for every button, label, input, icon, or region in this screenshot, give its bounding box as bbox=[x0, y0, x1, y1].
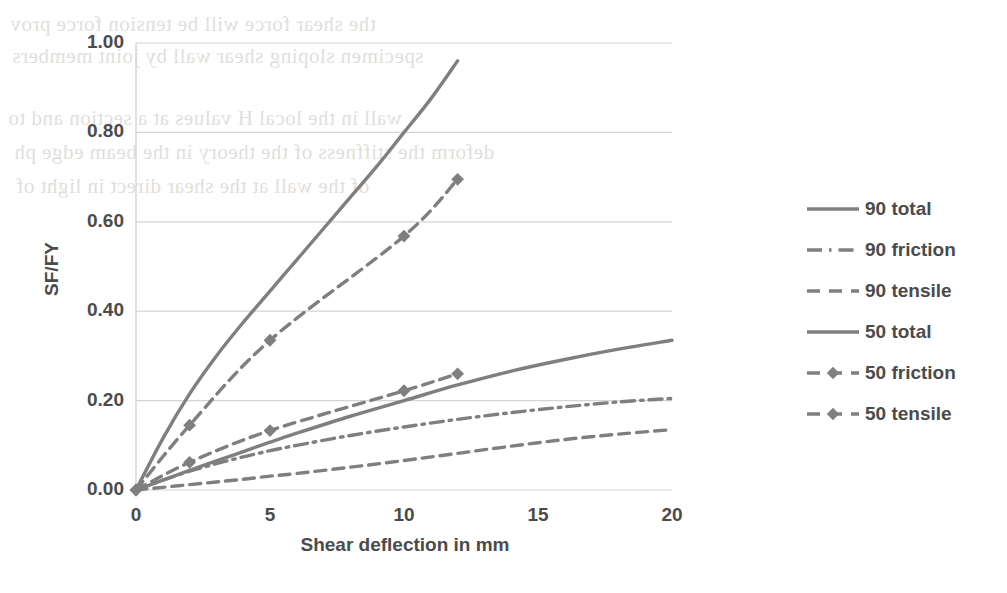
x-tick-label: 15 bbox=[508, 504, 568, 526]
legend-item-50-total[interactable]: 50 total bbox=[806, 311, 1002, 352]
series-line-50-tensile bbox=[136, 179, 458, 490]
legend-item-label: 50 tensile bbox=[865, 403, 952, 425]
series-line-90-friction bbox=[136, 398, 672, 490]
legend-swatch-icon bbox=[806, 241, 860, 259]
legend-item-label: 90 total bbox=[865, 198, 932, 220]
series-marker-50-friction bbox=[398, 384, 411, 397]
series-lines-group bbox=[136, 61, 672, 490]
legend-item-50-tensile[interactable]: 50 tensile bbox=[806, 393, 1002, 434]
x-tick-label: 5 bbox=[240, 504, 300, 526]
chart-figure: 0.000.200.400.600.801.00 05101520 Shear … bbox=[0, 0, 1007, 593]
legend-item-label: 90 tensile bbox=[865, 280, 952, 302]
legend-item-50-friction[interactable]: 50 friction bbox=[806, 352, 1002, 393]
y-tick-label: 1.00 bbox=[50, 31, 124, 53]
legend-swatch-icon bbox=[806, 282, 860, 300]
series-marker-50-friction bbox=[183, 456, 196, 469]
legend-item-label: 90 friction bbox=[865, 239, 956, 261]
series-line-50-total bbox=[136, 340, 672, 490]
legend-item-90-total[interactable]: 90 total bbox=[806, 188, 1002, 229]
legend-swatch-icon bbox=[806, 323, 860, 341]
legend-item-label: 50 total bbox=[865, 321, 932, 343]
x-tick-label: 0 bbox=[106, 504, 166, 526]
chart-legend: 90 total90 friction90 tensile50 total50 … bbox=[806, 188, 1002, 434]
series-marker-50-friction bbox=[451, 367, 464, 380]
series-marker-50-friction bbox=[264, 424, 277, 437]
legend-swatch-icon bbox=[806, 364, 860, 382]
legend-item-90-friction[interactable]: 90 friction bbox=[806, 229, 1002, 270]
y-tick-label: 0.00 bbox=[50, 478, 124, 500]
y-tick-label: 0.20 bbox=[50, 389, 124, 411]
y-tick-label: 0.80 bbox=[50, 120, 124, 142]
y-axis-title: SF/FY bbox=[41, 214, 63, 324]
legend-item-90-tensile[interactable]: 90 tensile bbox=[806, 270, 1002, 311]
x-tick-label: 10 bbox=[374, 504, 434, 526]
gridlines-group bbox=[136, 43, 672, 490]
x-axis-title: Shear deflection in mm bbox=[260, 534, 550, 556]
x-tick-label: 20 bbox=[642, 504, 702, 526]
legend-swatch-icon bbox=[806, 405, 860, 423]
legend-item-label: 50 friction bbox=[865, 362, 956, 384]
legend-swatch-icon bbox=[806, 200, 860, 218]
